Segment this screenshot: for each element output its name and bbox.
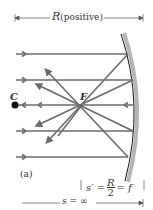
fraction: R 2	[107, 178, 115, 197]
fraction-denominator: 2	[108, 188, 114, 197]
concave-mirror-diagram: R(positive) C F (a) s′ = R 2 = f s = ∞	[0, 0, 153, 210]
center-label: C	[10, 91, 18, 102]
image-distance-label: s′ = R 2 = f	[86, 178, 132, 197]
image-distance-rhs: = f	[117, 182, 132, 193]
center-point	[12, 102, 19, 109]
focal-point-label: F	[80, 91, 87, 102]
radius-label: R(positive)	[52, 10, 103, 23]
panel-label: (a)	[20, 169, 32, 179]
radius-qualifier: (positive)	[60, 12, 103, 22]
image-distance-lhs: s′ =	[86, 182, 105, 193]
object-distance-label: s = ∞	[62, 196, 87, 206]
